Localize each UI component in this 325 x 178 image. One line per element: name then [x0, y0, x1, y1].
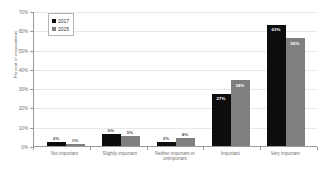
bar-value-label: 2% — [163, 136, 169, 141]
x-axis-category-label: Slightly important — [93, 151, 147, 162]
bar-2015[interactable]: 4% — [176, 138, 195, 146]
bar-group: 6%5% — [102, 12, 140, 146]
x-axis-category-label: Neither important or unimportant — [148, 151, 202, 162]
bar-slot: 2% — [157, 12, 176, 146]
y-axis-tick-label: 60% — [19, 29, 28, 34]
legend-item-2015[interactable]: 2015 — [52, 25, 69, 33]
bar-group: 2%4% — [157, 12, 195, 146]
bar-2015[interactable]: 1% — [66, 144, 85, 146]
bar-2017[interactable]: 2% — [47, 142, 66, 146]
legend-label: 2017 — [58, 18, 69, 24]
bar-2017[interactable]: 2% — [157, 142, 176, 146]
y-axis-tick-label: 10% — [19, 125, 28, 130]
bar-slot: 63% — [267, 12, 286, 146]
bar-groups: 2%1%6%5%2%4%27%34%63%56% — [34, 12, 317, 146]
x-axis-category-label: Very important — [258, 151, 312, 162]
bar-value-label: 2% — [53, 136, 59, 141]
legend-item-2017[interactable]: 2017 — [52, 17, 69, 25]
plot-area: 0%10%20%30%40%50%60%70% 2%1%6%5%2%4%27%3… — [33, 12, 317, 147]
x-axis-category-label: Not important — [38, 151, 92, 162]
bar-2015[interactable]: 34% — [231, 80, 250, 146]
bar-value-label: 6% — [108, 128, 114, 133]
y-axis-tick-label: 30% — [19, 87, 28, 92]
bar-slot: 5% — [121, 12, 140, 146]
bar-value-label: 56% — [291, 41, 300, 46]
y-axis-tick-label: 70% — [19, 10, 28, 15]
bar-slot: 56% — [286, 12, 305, 146]
bar-2017[interactable]: 63% — [267, 25, 286, 147]
bar-value-label: 27% — [217, 96, 226, 101]
bar-value-label: 4% — [182, 132, 188, 137]
bar-group: 63%56% — [267, 12, 305, 146]
y-axis-tick-label: 40% — [19, 67, 28, 72]
bar-2017[interactable]: 6% — [102, 134, 121, 146]
bar-2015[interactable]: 5% — [121, 136, 140, 146]
legend-swatch-icon — [52, 19, 56, 23]
legend[interactable]: 2017 2015 — [48, 13, 74, 36]
x-axis-tick — [260, 147, 261, 150]
bar-group: 27%34% — [212, 12, 250, 146]
bar-value-label: 34% — [236, 83, 245, 88]
bar-chart: Percent of respondents 0%10%20%30%40%50%… — [0, 0, 325, 178]
y-axis-title: Percent of respondents — [13, 12, 18, 98]
bar-slot: 34% — [231, 12, 250, 146]
legend-swatch-icon — [52, 27, 56, 31]
x-axis-labels: Not importantSlightly importantNeither i… — [33, 151, 317, 162]
bar-slot: 6% — [102, 12, 121, 146]
bar-value-label: 5% — [127, 130, 133, 135]
x-axis-tick — [317, 147, 318, 150]
bar-2017[interactable]: 27% — [212, 94, 231, 146]
x-axis-tick — [90, 147, 91, 150]
x-axis-tick — [33, 147, 34, 150]
bar-value-label: 63% — [272, 27, 281, 32]
y-axis-tick-label: 20% — [19, 106, 28, 111]
y-axis-tick-label: 50% — [19, 48, 28, 53]
legend-label: 2015 — [58, 26, 69, 32]
y-axis-tick-label: 0% — [21, 145, 28, 150]
bar-slot: 27% — [212, 12, 231, 146]
bar-slot: 4% — [176, 12, 195, 146]
x-axis-tick — [147, 147, 148, 150]
x-axis-category-label: Important — [203, 151, 257, 162]
bar-2015[interactable]: 56% — [286, 38, 305, 146]
bar-value-label: 1% — [72, 138, 78, 143]
x-axis-tick — [203, 147, 204, 150]
